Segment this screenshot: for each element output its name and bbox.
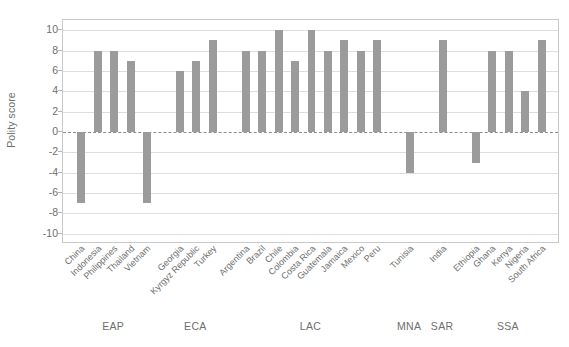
bar: [357, 51, 365, 132]
bar: [94, 51, 102, 132]
y-tick-label: 10: [28, 24, 58, 35]
bar: [127, 61, 135, 132]
bar: [324, 51, 332, 132]
bar: [192, 61, 200, 132]
plot-area: [62, 19, 559, 243]
y-axis-title: Polity score: [0, 0, 22, 240]
group-label: MNA: [397, 320, 421, 332]
region-group-labels: EAPECALACMNASARSSA: [62, 320, 559, 338]
group-label: LAC: [300, 320, 321, 332]
bar: [209, 40, 217, 132]
y-tick-label: -10: [28, 227, 58, 238]
group-label: ECA: [184, 320, 207, 332]
group-label: SAR: [431, 320, 454, 332]
y-tick-label: 6: [28, 64, 58, 75]
bar: [505, 51, 513, 132]
group-label: EAP: [102, 320, 124, 332]
bar: [488, 51, 496, 132]
y-tick-label: -4: [28, 166, 58, 177]
y-tick-label: 0: [28, 126, 58, 137]
bar: [521, 91, 529, 132]
bar: [77, 132, 85, 203]
y-tick-label: 4: [28, 85, 58, 96]
bar: [373, 40, 381, 132]
bar: [242, 51, 250, 132]
bar: [291, 61, 299, 132]
bar: [258, 51, 266, 132]
bar: [538, 40, 546, 132]
bar: [143, 132, 151, 203]
bar: [110, 51, 118, 132]
group-label: SSA: [497, 320, 519, 332]
bar: [275, 30, 283, 132]
bar: [406, 132, 414, 173]
y-tick-label: -6: [28, 187, 58, 198]
y-tick-label: -8: [28, 207, 58, 218]
bar: [439, 40, 447, 132]
bar: [308, 30, 316, 132]
y-tick-label: 8: [28, 44, 58, 55]
y-axis-title-text: Polity score: [5, 92, 17, 147]
y-tick-label: -2: [28, 146, 58, 157]
bar: [176, 71, 184, 132]
x-axis-category-labels: ChinaIndonesiaPhilippinesThailandVietnam…: [62, 244, 559, 304]
polity-score-bar-chart: Polity score 1086420-2-4-6-8-10 ChinaInd…: [0, 0, 569, 347]
bar: [340, 40, 348, 132]
bars-container: [63, 20, 558, 242]
y-axis-tick-labels: 1086420-2-4-6-8-10: [22, 19, 58, 243]
y-tick-label: 2: [28, 105, 58, 116]
bar: [472, 132, 480, 163]
